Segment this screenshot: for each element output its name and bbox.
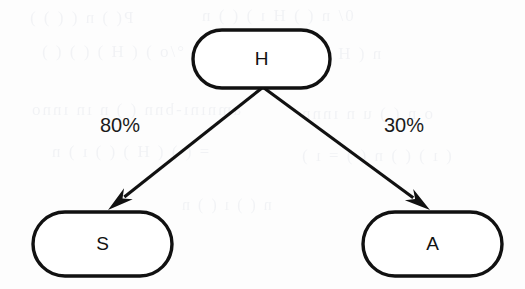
edge-shaft [264,88,413,198]
edge-h-to-a [264,88,430,210]
edge-h-to-s [108,88,262,210]
edge-labels-group: 80%30% [100,114,424,136]
edges-group [108,88,430,210]
arrowhead-icon [405,189,430,210]
edge-label-h-s: 80% [100,114,140,136]
node-h[interactable]: H [193,30,330,88]
node-label-a: A [426,233,439,254]
node-label-s: S [96,233,109,254]
nodes-group: HSA [33,30,502,276]
edge-label-h-a: 30% [384,114,424,136]
node-s[interactable]: S [33,212,172,276]
node-a[interactable]: A [363,212,502,276]
diagram-canvas: P( ) n ( ( ) )0/ n ( ) H ı ) ( ) n°/o ) … [0,0,525,289]
edge-shaft [124,88,262,197]
node-label-h: H [255,48,269,69]
tree-diagram-svg: HSA 80%30% [0,0,525,289]
